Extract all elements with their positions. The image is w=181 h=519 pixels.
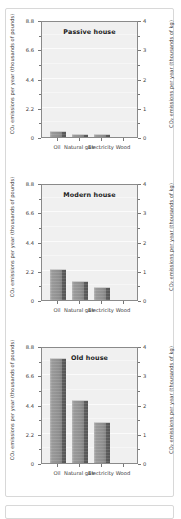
x-tick-label: Wood — [108, 307, 138, 313]
y-tick-left — [38, 464, 41, 465]
y-tick-right-minor — [138, 199, 140, 200]
y-tick-label-right: 3 — [143, 210, 165, 216]
secondary-card — [5, 505, 174, 519]
y-tick-right — [138, 376, 141, 377]
y-tick-right-minor — [138, 449, 140, 450]
y-tick-label-right: 0 — [143, 461, 165, 467]
y-tick-left-minor — [39, 65, 41, 66]
y-tick-left — [38, 272, 41, 273]
x-tick — [79, 301, 80, 304]
y-tick-right — [138, 138, 141, 139]
y-tick-right-minor — [138, 123, 140, 124]
bar-series — [42, 185, 137, 300]
y-tick-right — [138, 213, 141, 214]
y-tick-right-minor — [138, 391, 140, 392]
y-tick-right — [138, 50, 141, 51]
y-tick-right — [138, 80, 141, 81]
y-tick-left — [38, 301, 41, 302]
y-tick-left-minor — [39, 286, 41, 287]
y-tick-label-left: 0 — [12, 135, 34, 141]
bar — [50, 358, 66, 463]
x-tick — [79, 464, 80, 467]
x-tick — [123, 138, 124, 141]
y-tick-left — [38, 376, 41, 377]
y-tick-right-minor — [138, 362, 140, 363]
y-tick-label-left: 6.6 — [12, 47, 34, 53]
y-tick-right — [138, 184, 141, 185]
plot-area: Passive house — [41, 21, 138, 138]
y-tick-label-left: 4.4 — [12, 403, 34, 409]
y-tick-right — [138, 464, 141, 465]
chart-panel: CO₂ emissions per year (thousands of pou… — [6, 9, 175, 172]
y-tick-label-left: 2.2 — [12, 269, 34, 275]
chart-panel: CO₂ emissions per year (thousands of pou… — [6, 335, 175, 498]
y-tick-left-minor — [39, 36, 41, 37]
y-tick-label-right: 3 — [143, 47, 165, 53]
y-tick-left-minor — [39, 257, 41, 258]
y-tick-label-left: 2.2 — [12, 106, 34, 112]
y-tick-left-minor — [39, 391, 41, 392]
x-tick — [57, 301, 58, 304]
y-tick-right-minor — [138, 94, 140, 95]
y-tick-label-right: 1 — [143, 269, 165, 275]
y-tick-label-right: 4 — [143, 181, 165, 187]
y-tick-right — [138, 301, 141, 302]
bar-series — [42, 348, 137, 463]
chart-panel: CO₂ emissions per year (thousands of pou… — [6, 172, 175, 335]
y-tick-label-left: 8.8 — [12, 344, 34, 350]
y-tick-left — [38, 21, 41, 22]
bar — [72, 400, 88, 463]
x-tick — [79, 138, 80, 141]
y-tick-right-minor — [138, 286, 140, 287]
y-tick-left-minor — [39, 449, 41, 450]
x-tick — [101, 464, 102, 467]
x-tick-label: Wood — [108, 144, 138, 150]
y-tick-left-minor — [39, 199, 41, 200]
x-axis-labels: OilNatural gasElectricityWood — [41, 304, 138, 330]
y-tick-right-minor — [138, 36, 140, 37]
y-tick-left — [38, 138, 41, 139]
y-tick-right — [138, 272, 141, 273]
chart-figure-card: CO₂ emissions per year (thousands of pou… — [5, 8, 174, 497]
y-axis-right-label: CO₂ emissions per year (thousands of kg) — [168, 325, 174, 475]
x-tick — [57, 138, 58, 141]
y-tick-label-right: 1 — [143, 432, 165, 438]
y-tick-right — [138, 435, 141, 436]
y-tick-left — [38, 347, 41, 348]
x-tick — [101, 138, 102, 141]
y-tick-label-left: 8.8 — [12, 18, 34, 24]
bar — [94, 287, 110, 300]
y-tick-label-left: 2.2 — [12, 432, 34, 438]
y-tick-label-right: 0 — [143, 298, 165, 304]
bar — [50, 269, 66, 300]
x-axis-labels: OilNatural gasElectricityWood — [41, 141, 138, 167]
y-tick-left-minor — [39, 362, 41, 363]
y-tick-left — [38, 50, 41, 51]
y-tick-right-minor — [138, 65, 140, 66]
y-tick-right-minor — [138, 420, 140, 421]
y-tick-right — [138, 109, 141, 110]
y-tick-label-left: 6.6 — [12, 210, 34, 216]
y-tick-right-minor — [138, 257, 140, 258]
y-tick-left — [38, 213, 41, 214]
y-tick-left — [38, 184, 41, 185]
plot-area: Modern house — [41, 184, 138, 301]
y-tick-label-left: 4.4 — [12, 240, 34, 246]
y-tick-right-minor — [138, 228, 140, 229]
y-tick-right — [138, 406, 141, 407]
y-tick-label-left: 6.6 — [12, 373, 34, 379]
y-tick-right — [138, 243, 141, 244]
y-tick-left — [38, 243, 41, 244]
y-tick-label-left: 4.4 — [12, 77, 34, 83]
y-tick-label-left: 0 — [12, 461, 34, 467]
y-axis-right-label: CO₂ emissions per year (thousands of kg) — [168, 162, 174, 312]
x-tick-label: Wood — [108, 470, 138, 476]
y-tick-left-minor — [39, 123, 41, 124]
y-axis-right-label: CO₂ emissions per year (thousands of kg) — [168, 0, 174, 149]
x-tick — [123, 301, 124, 304]
y-tick-label-right: 2 — [143, 240, 165, 246]
y-tick-label-right: 2 — [143, 77, 165, 83]
y-tick-label-right: 1 — [143, 106, 165, 112]
x-axis-labels: OilNatural gasElectricityWood — [41, 467, 138, 493]
y-tick-right — [138, 21, 141, 22]
